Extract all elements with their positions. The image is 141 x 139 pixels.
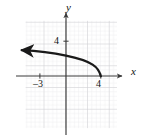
x-axis-label: x bbox=[131, 66, 136, 77]
tick-label-x-4: 4 bbox=[96, 79, 101, 89]
y-axis-label: y bbox=[66, 2, 71, 13]
tick-label-x-negative-3: –3 bbox=[33, 79, 43, 89]
grid-lines bbox=[26, 21, 117, 128]
coordinate-plane bbox=[0, 0, 141, 139]
tick-label-y-4: 4 bbox=[54, 36, 59, 46]
graph-figure: y x 4 4 –3 bbox=[0, 0, 141, 139]
